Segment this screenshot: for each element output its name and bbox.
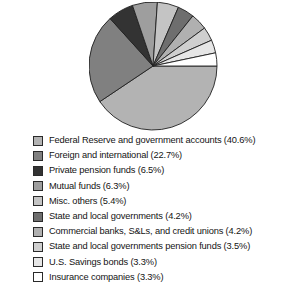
legend-item-state-local-governments: State and local governments (4.2%) — [33, 209, 307, 224]
legend-item-private-pension-funds: Private pension funds (6.5%) — [33, 163, 307, 178]
legend-swatch — [33, 272, 43, 282]
legend-item-label: Private pension funds (6.5%) — [49, 165, 164, 176]
legend-swatch — [33, 181, 43, 191]
legend-item-insurance-companies: Insurance companies (3.3%) — [33, 270, 307, 285]
legend-item-misc-others: Misc. others (5.4%) — [33, 194, 307, 209]
chart-legend: Federal Reserve and government accounts … — [0, 133, 307, 285]
legend-item-foreign-international: Foreign and international (22.7%) — [33, 148, 307, 163]
legend-item-label: Federal Reserve and government accounts … — [49, 135, 255, 146]
pie-chart-svg — [89, 2, 218, 131]
legend-item-label: Insurance companies (3.3%) — [49, 272, 163, 283]
legend-swatch — [33, 212, 43, 222]
legend-swatch — [33, 166, 43, 176]
legend-item-federal-reserve: Federal Reserve and government accounts … — [33, 133, 307, 148]
legend-swatch — [33, 242, 43, 252]
legend-swatch — [33, 196, 43, 206]
legend-item-label: Mutual funds (6.3%) — [49, 181, 129, 192]
legend-swatch — [33, 227, 43, 237]
legend-swatch — [33, 136, 43, 146]
legend-swatch — [33, 151, 43, 161]
pie-chart-area — [0, 0, 307, 133]
legend-item-us-savings-bonds: U.S. Savings bonds (3.3%) — [33, 255, 307, 270]
legend-item-label: State and local governments (4.2%) — [49, 211, 192, 222]
legend-item-commercial-banks: Commercial banks, S&Ls, and credit union… — [33, 224, 307, 239]
legend-item-label: Commercial banks, S&Ls, and credit union… — [49, 226, 252, 237]
legend-item-label: State and local governments pension fund… — [49, 241, 250, 252]
pie-chart-figure: Federal Reserve and government accounts … — [0, 0, 307, 289]
legend-item-label: Foreign and international (22.7%) — [49, 150, 182, 161]
legend-item-mutual-funds: Mutual funds (6.3%) — [33, 179, 307, 194]
legend-item-label: U.S. Savings bonds (3.3%) — [49, 257, 157, 268]
legend-item-state-local-pension-funds: State and local governments pension fund… — [33, 239, 307, 254]
legend-item-label: Misc. others (5.4%) — [49, 196, 126, 207]
legend-swatch — [33, 257, 43, 267]
